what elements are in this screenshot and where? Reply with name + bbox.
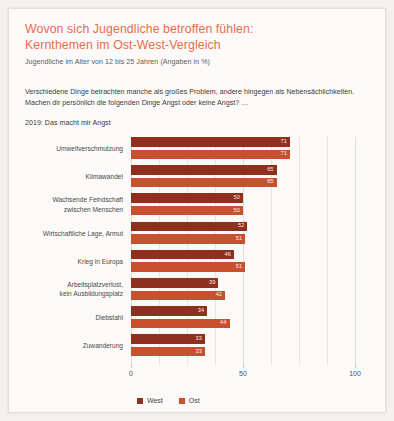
category-label-line: Arbeitsplatzverlust, (25, 280, 123, 289)
category-label-line: kein Ausbildungsplatz (25, 289, 123, 298)
bar-value-label: 71 (281, 151, 287, 157)
bar-west: 39 (131, 278, 218, 288)
question-text: Verschiedene Dinge betrachten manche als… (25, 87, 375, 109)
bar-group: Wachsende Feindschaftzwischen Menschen50… (131, 193, 355, 219)
category-label: Zuwanderung (25, 341, 123, 350)
bar-value-label: 34 (198, 308, 204, 314)
category-label: Wachsende Feindschaftzwischen Menschen (25, 195, 123, 213)
category-label: Krieg in Europa (25, 257, 123, 266)
category-label: Arbeitsplatzverlust,kein Ausbildungsplat… (25, 280, 123, 298)
bar-value-label: 65 (267, 180, 273, 186)
category-label-line: Wirtschaftliche Lage, Armut (25, 229, 123, 238)
bar-value-label: 52 (238, 224, 244, 230)
bar-ost: 51 (131, 234, 245, 244)
title-line-2: Kernthemen im Ost-West-Vergleich (25, 38, 365, 54)
bar-west: 46 (131, 250, 234, 260)
category-label-line: Diebstahl (25, 313, 123, 322)
bar-rows: Umweltverschmutzung7171Klimawandel6565Wa… (131, 137, 355, 365)
question-line-2: Machen dir persönlich die folgenden Ding… (25, 98, 375, 109)
legend-item-west[interactable]: West (137, 397, 163, 404)
category-label-line: Wachsende Feindschaft (25, 195, 123, 204)
x-tick-label: 0 (129, 370, 133, 377)
bar-west: 71 (131, 137, 290, 147)
category-label: Umweltverschmutzung (25, 144, 123, 153)
bar-value-label: 33 (195, 336, 201, 342)
bar-west: 50 (131, 193, 243, 203)
bar-west: 52 (131, 222, 247, 232)
category-label-line: zwischen Menschen (25, 205, 123, 214)
legend-item-ost[interactable]: Ost (179, 397, 200, 404)
gridline (355, 137, 356, 365)
bar-group: Diebstahl3444 (131, 306, 355, 332)
x-tick-label: 50 (239, 370, 247, 377)
legend-swatch-icon (137, 398, 143, 404)
category-label-line: Zuwanderung (25, 341, 123, 350)
plot-area: Umweltverschmutzung7171Klimawandel6565Wa… (131, 137, 355, 365)
bar-west: 34 (131, 306, 207, 316)
bar-ost: 71 (131, 150, 290, 160)
category-label-line: Klimawandel (25, 172, 123, 181)
category-label-line: Umweltverschmutzung (25, 144, 123, 153)
category-label-line: Krieg in Europa (25, 257, 123, 266)
bar-ost: 51 (131, 262, 245, 272)
legend-label: West (147, 397, 163, 404)
bar-ost: 65 (131, 178, 277, 188)
bar-value-label: 51 (236, 236, 242, 242)
bar-value-label: 46 (225, 252, 231, 258)
bar-ost: 42 (131, 291, 225, 301)
bar-value-label: 42 (216, 292, 222, 298)
category-label: Diebstahl (25, 313, 123, 322)
bar-value-label: 44 (220, 321, 226, 327)
chart-card: Wovon sich Jugendliche betroffen fühlen:… (8, 8, 386, 413)
bar-group: Klimawandel6565 (131, 165, 355, 191)
bar-value-label: 71 (281, 139, 287, 145)
bar-value-label: 50 (234, 195, 240, 201)
title-line-1: Wovon sich Jugendliche betroffen fühlen: (25, 22, 253, 36)
bar-value-label: 50 (234, 208, 240, 214)
bar-ost: 50 (131, 206, 243, 216)
bar-west: 65 (131, 165, 277, 175)
chart-subtitle: Jugendliche im Alter von 12 bis 25 Jahre… (25, 57, 370, 67)
bar-group: Wirtschaftliche Lage, Armut5251 (131, 222, 355, 248)
x-tick-mark (131, 365, 132, 368)
x-tick-label: 100 (349, 370, 361, 377)
chart-legend: WestOst (137, 397, 200, 404)
bar-group: Umweltverschmutzung7171 (131, 137, 355, 163)
x-tick-mark (243, 365, 244, 368)
bar-value-label: 33 (195, 349, 201, 355)
bar-ost: 44 (131, 319, 230, 329)
legend-label: Ost (189, 397, 200, 404)
bar-value-label: 51 (236, 264, 242, 270)
x-axis: 050100 (131, 365, 355, 383)
bar-value-label: 39 (209, 280, 215, 286)
x-tick-mark (355, 365, 356, 368)
page-title: Wovon sich Jugendliche betroffen fühlen:… (25, 22, 365, 53)
bar-group: Zuwanderung3333 (131, 334, 355, 360)
bar-west: 33 (131, 334, 205, 344)
bar-ost: 33 (131, 347, 205, 357)
bar-value-label: 65 (267, 167, 273, 173)
series-note: 2019: Das macht mir Angst (25, 119, 111, 127)
category-label: Klimawandel (25, 172, 123, 181)
bar-group: Arbeitsplatzverlust,kein Ausbildungsplat… (131, 278, 355, 304)
bar-group: Krieg in Europa4651 (131, 250, 355, 276)
question-line-1: Verschiedene Dinge betrachten manche als… (25, 87, 375, 98)
category-label: Wirtschaftliche Lage, Armut (25, 229, 123, 238)
legend-swatch-icon (179, 398, 185, 404)
bar-chart: Umweltverschmutzung7171Klimawandel6565Wa… (25, 137, 371, 375)
screenshot-root: Wovon sich Jugendliche betroffen fühlen:… (0, 0, 394, 421)
